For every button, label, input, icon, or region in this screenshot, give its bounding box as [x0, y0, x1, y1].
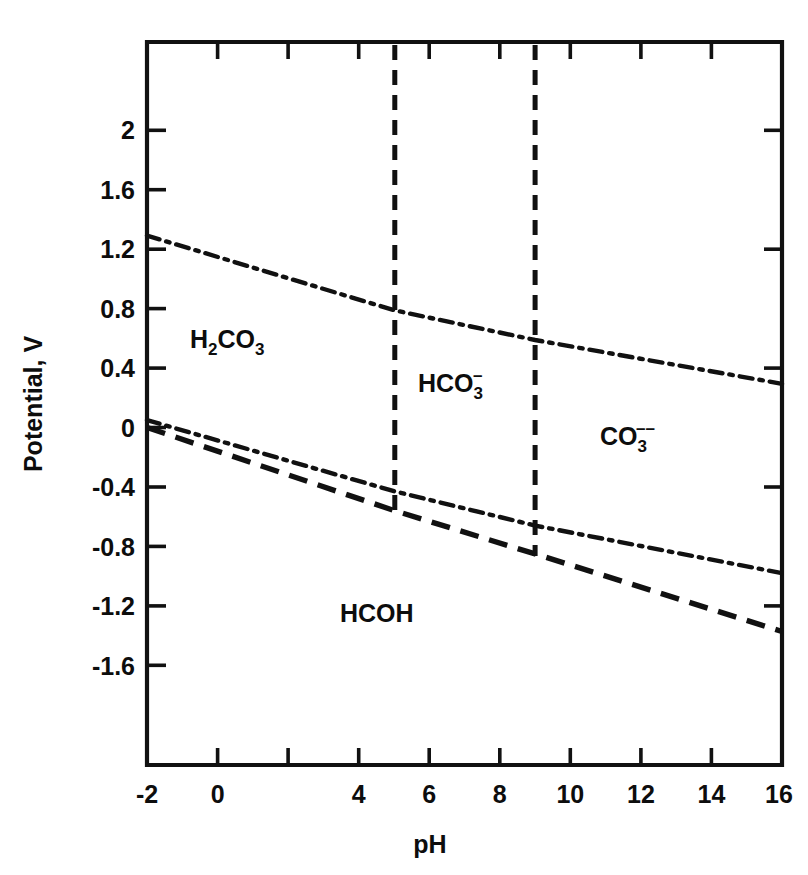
x-tick-label: 14 [697, 780, 725, 808]
x-tick-label: 10 [556, 780, 584, 808]
x-tick-labels: -2 0 4 6 8 10 12 14 16 [136, 780, 793, 808]
region-label-formaldehyde: HCOH [340, 599, 414, 627]
h2co3-co: CO [218, 325, 256, 353]
x-tick-label: 6 [422, 780, 436, 808]
h2co3-h: H [190, 325, 208, 353]
x-axis-ticks-top [218, 42, 712, 59]
y-tick-label: 1.6 [100, 176, 135, 204]
series-upper-dashdot [147, 236, 782, 384]
x-tick-label: 8 [493, 780, 507, 808]
x-axis-title: pH [413, 830, 446, 858]
y-tick-label: 0.4 [100, 354, 135, 382]
x-tick-label: 4 [352, 780, 366, 808]
hco3-base: HCO [418, 369, 474, 397]
y-axis-title: Potential, V [19, 336, 47, 472]
y-tick-label: 0.8 [100, 295, 135, 323]
y-tick-label: -1.2 [92, 592, 135, 620]
h2co3-sub-3: 3 [255, 340, 264, 359]
series-hcoh-longdash [147, 428, 782, 632]
co3-base: CO [600, 422, 638, 450]
svg-text:HCO3–: HCO3– [418, 366, 483, 403]
h2co3-sub-2: 2 [208, 340, 217, 359]
x-tick-label: 0 [211, 780, 225, 808]
y-axis-ticks-right [764, 130, 782, 606]
co3-superscript-double-minus: –– [636, 419, 655, 438]
hcoh-base: HCOH [340, 599, 414, 627]
co3-sub-3: 3 [638, 437, 647, 456]
pourbaix-diagram-figure: 2 1.6 1.2 0.8 0.4 0 -0.4 -0.8 -1.2 -1.6 … [0, 0, 808, 875]
y-tick-label: 2 [121, 116, 135, 144]
hco3-superscript-minus: – [473, 366, 482, 385]
x-tick-label: 16 [765, 780, 793, 808]
chart-canvas: 2 1.6 1.2 0.8 0.4 0 -0.4 -0.8 -1.2 -1.6 … [0, 0, 808, 875]
region-label-bicarbonate: HCO3– [418, 366, 483, 403]
y-tick-label: 1.2 [100, 235, 135, 263]
svg-text:H2CO3: H2CO3 [190, 325, 265, 359]
y-tick-label: -0.8 [92, 533, 135, 561]
y-tick-labels: 2 1.6 1.2 0.8 0.4 0 -0.4 -0.8 -1.2 -1.6 [92, 116, 135, 680]
y-axis-ticks [147, 130, 166, 665]
svg-text:CO3––: CO3–– [600, 419, 655, 456]
series-lower-dashdot [147, 420, 782, 573]
y-tick-label: 0 [121, 414, 135, 442]
x-tick-label: -2 [136, 780, 158, 808]
region-label-carbonic-acid: H2CO3 [190, 325, 265, 359]
y-tick-label: -0.4 [92, 473, 135, 501]
x-axis-ticks-bottom [218, 748, 712, 765]
x-tick-label: 12 [627, 780, 655, 808]
hco3-sub-3: 3 [474, 384, 483, 403]
region-label-carbonate: CO3–– [600, 419, 655, 456]
y-tick-label: -1.6 [92, 652, 135, 680]
plot-frame [147, 42, 782, 765]
